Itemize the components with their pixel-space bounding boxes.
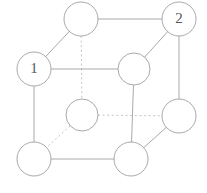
cube-graph-figure: 21 — [0, 0, 207, 193]
graph-edge-right-lower-to-bottom-mid — [144, 127, 167, 147]
graph-node-bottom-left — [17, 142, 51, 176]
graph-node-left-front: 1 — [17, 52, 51, 86]
graph-node-mid-front — [118, 53, 150, 85]
cube-graph-canvas: 21 — [0, 0, 207, 193]
node-circle-right-lower — [162, 99, 196, 133]
node-label-left-front: 1 — [30, 60, 38, 76]
graph-edge-mid-front-to-bottom-mid — [132, 85, 134, 142]
graph-node-right-lower — [162, 99, 196, 133]
node-label-right-back: 2 — [175, 10, 183, 26]
node-circle-inner-hidden — [66, 99, 98, 131]
graph-node-inner-hidden — [66, 99, 98, 131]
graph-node-bottom-mid — [114, 142, 148, 176]
edge-layer — [34, 19, 179, 159]
graph-edge-inner-hidden-to-bottom-left — [47, 126, 71, 148]
node-layer: 21 — [17, 2, 196, 176]
graph-edge-inner-hidden-to-right-lower — [98, 115, 162, 116]
graph-node-right-back: 2 — [162, 2, 196, 36]
node-circle-top-back — [64, 2, 98, 36]
graph-edge-top-back-to-inner-hidden — [81, 36, 82, 99]
graph-edge-right-back-to-mid-front — [145, 32, 168, 57]
node-circle-bottom-left — [17, 142, 51, 176]
graph-edge-top-back-to-left-front — [46, 31, 70, 56]
node-circle-mid-front — [118, 53, 150, 85]
node-circle-bottom-mid — [114, 142, 148, 176]
graph-node-top-back — [64, 2, 98, 36]
